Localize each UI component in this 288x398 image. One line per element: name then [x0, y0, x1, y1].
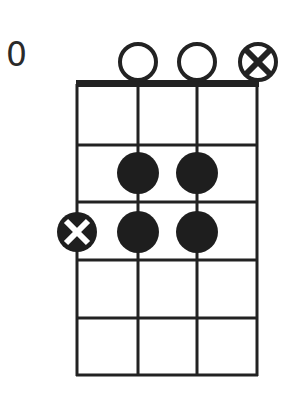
finger-dot: [176, 211, 218, 253]
frets: [76, 145, 258, 375]
strings: [77, 84, 257, 376]
muted-fret-x-icon: [57, 212, 97, 252]
nut: [76, 80, 259, 87]
finger-dot: [176, 152, 218, 194]
open-string-circle-icon: [179, 44, 215, 80]
chord-diagram: [0, 0, 288, 398]
muted-string-x-icon: [240, 44, 276, 80]
open-string-circle-icon: [120, 44, 156, 80]
finger-dot: [117, 152, 159, 194]
finger-dot: [117, 211, 159, 253]
